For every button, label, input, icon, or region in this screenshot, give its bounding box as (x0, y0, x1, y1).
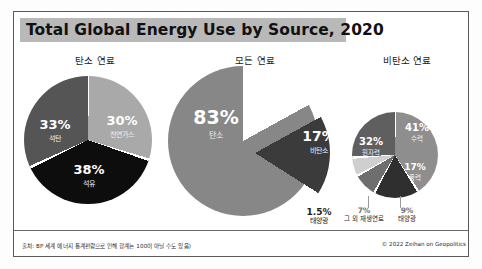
section-header-carbon-fuels: 탄소 연료 (40, 53, 150, 67)
slice-label-carbon: 83% 탄소 (183, 106, 249, 140)
section-header-noncarbon-fuels: 비탄소 연료 (352, 53, 462, 67)
callout-solar-small: 9% 태양광 (386, 206, 428, 223)
slice-pct-coal: 33% (30, 117, 80, 132)
page-title: Total Global Energy Use by Source, 2020 (26, 20, 356, 40)
slice-pct-natural-gas: 30% (95, 113, 149, 128)
slice-name-wind: 풍력 (398, 172, 432, 182)
slice-name-nuclear: 원자력 (352, 147, 390, 157)
section-header-all-fuels: 모든 연료 (200, 53, 310, 67)
slice-label-oil: 38% 석유 (62, 162, 116, 188)
callout-other-renewables: 7% 그 외 재생연료 (341, 206, 387, 223)
slice-pct-nuclear: 32% (352, 136, 390, 147)
callout-pct-solar-small: 9% (386, 206, 428, 215)
slice-label-natural-gas: 30% 천연가스 (95, 113, 149, 139)
slice-label-nuclear: 32% 원자력 (352, 136, 390, 157)
source-note: 출처: BP 세계 에너지 통계편람으로 인해 합계는 100이 아닐 수도 있… (22, 242, 322, 250)
slice-pct-noncarbon: 17% (290, 128, 348, 144)
callout-pct-other-renewables: 7% (341, 206, 387, 215)
footer-divider (14, 230, 468, 231)
slice-name-coal: 석탄 (30, 133, 80, 143)
slice-label-noncarbon: 17% 비탄소 (290, 128, 348, 155)
callout-name-solar-total: 태양광 (296, 218, 342, 225)
slice-name-carbon: 탄소 (183, 129, 249, 140)
callout-name-other-renewables: 그 외 재생연료 (341, 216, 387, 223)
copyright-notice: © 2022 Zeihan on Geopolitics (374, 241, 466, 247)
slice-name-hydro: 수력 (398, 133, 436, 143)
slice-label-coal: 33% 석탄 (30, 117, 80, 143)
callout-solar-total: 1.5% 태양광 (296, 207, 342, 225)
slice-pct-carbon: 83% (183, 106, 249, 128)
callout-name-solar-small: 태양광 (386, 216, 428, 223)
slice-pct-wind: 17% (398, 162, 432, 172)
slice-name-noncarbon: 비탄소 (290, 145, 348, 155)
slice-pct-oil: 38% (62, 162, 116, 177)
infographic-root: Total Global Energy Use by Source, 2020 … (0, 0, 482, 269)
slice-name-natural-gas: 천연가스 (95, 129, 149, 139)
slice-label-hydro: 41% 수력 (398, 122, 436, 143)
slice-label-wind: 17% 풍력 (398, 162, 432, 182)
callout-pct-solar-total: 1.5% (296, 207, 342, 217)
slice-pct-hydro: 41% (398, 122, 436, 133)
slice-name-oil: 석유 (62, 178, 116, 188)
